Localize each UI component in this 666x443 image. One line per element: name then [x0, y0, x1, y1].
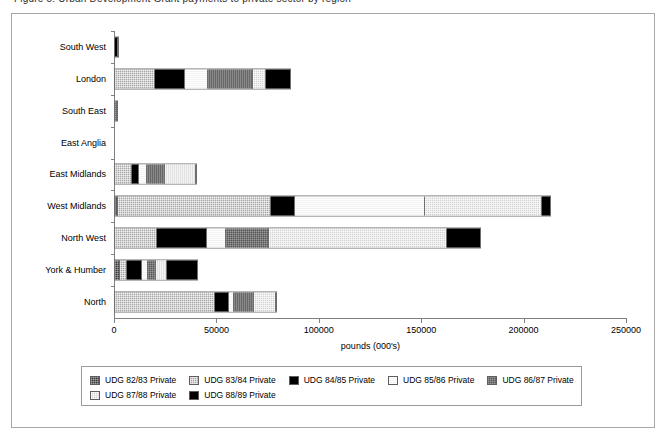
x-axis-tick — [524, 318, 525, 323]
bar-segment[interactable] — [156, 261, 167, 280]
category-label: South West — [60, 42, 106, 51]
category-label: South East — [62, 106, 106, 115]
x-axis-tick-label: 50000 — [204, 325, 229, 335]
category-label: East Anglia — [61, 138, 106, 147]
x-axis-tick — [626, 318, 627, 323]
bar-segment[interactable] — [215, 293, 229, 312]
bar-segment[interactable] — [155, 69, 185, 88]
y-axis-tick — [111, 159, 115, 160]
legend-label: UDG 82/83 Private — [105, 376, 176, 385]
bar-segment[interactable] — [234, 293, 254, 312]
x-axis-tick-label: 100000 — [304, 325, 334, 335]
bar-segment[interactable] — [115, 37, 118, 56]
category-row: London — [114, 63, 626, 95]
legend-label: UDG 83/84 Private — [204, 376, 275, 385]
bar-segment[interactable] — [271, 197, 295, 216]
chart-frame: South WestLondonSouth EastEast AngliaEas… — [11, 13, 655, 428]
x-axis-title: pounds (000's) — [114, 341, 627, 351]
legend-swatch-icon — [388, 376, 398, 385]
bar-segment[interactable] — [115, 229, 157, 248]
legend-swatch-icon — [90, 376, 100, 385]
legend-swatch-icon — [487, 376, 497, 385]
legend-label: UDG 85/86 Private — [403, 376, 474, 385]
category-row: York & Humber — [114, 254, 626, 286]
category-row: South East — [114, 95, 626, 127]
category-label: North — [84, 298, 106, 307]
bar-segment[interactable] — [295, 197, 425, 216]
category-label: North West — [61, 234, 106, 243]
category-row: North West — [114, 222, 626, 254]
category-row: East Midlands — [114, 159, 626, 191]
legend-swatch-icon — [189, 376, 199, 385]
bar-segment[interactable] — [147, 165, 165, 184]
plot-area: South WestLondonSouth EastEast AngliaEas… — [114, 31, 626, 318]
bar-segment[interactable] — [118, 197, 271, 216]
legend-item[interactable]: UDG 82/83 Private — [90, 376, 176, 385]
x-axis-tick-label: 0 — [111, 325, 116, 335]
stacked-bar[interactable] — [114, 260, 198, 281]
bar-segment[interactable] — [115, 69, 155, 88]
legend-swatch-icon — [90, 391, 100, 400]
legend-label: UDG 88/89 Private — [204, 391, 275, 400]
legend-row: UDG 87/88 PrivateUDG 88/89 Private — [90, 388, 581, 403]
category-row: West Midlands — [114, 190, 626, 222]
bar-segment[interactable] — [115, 101, 117, 120]
bar-segment[interactable] — [115, 165, 132, 184]
x-axis-tick-label: 200000 — [509, 325, 539, 335]
bar-segment[interactable] — [226, 229, 269, 248]
bar-segment[interactable] — [127, 261, 142, 280]
bar-segment[interactable] — [254, 293, 276, 312]
bar-segment[interactable] — [208, 69, 253, 88]
y-axis-tick — [111, 190, 115, 191]
chart-legend: UDG 82/83 PrivateUDG 83/84 PrivateUDG 84… — [81, 366, 582, 406]
bar-segment[interactable] — [120, 261, 127, 280]
legend-swatch-icon — [289, 376, 299, 385]
y-axis-tick — [111, 222, 115, 223]
stacked-bar[interactable] — [114, 164, 197, 185]
y-axis-tick — [111, 254, 115, 255]
legend-item[interactable]: UDG 85/86 Private — [388, 376, 474, 385]
bar-segment[interactable] — [447, 229, 480, 248]
bar-segment[interactable] — [132, 165, 139, 184]
category-label: London — [76, 74, 106, 83]
category-label: York & Humber — [45, 266, 106, 275]
x-axis-tick-label: 250000 — [611, 325, 641, 335]
x-axis-line — [114, 318, 627, 319]
stacked-bar[interactable] — [114, 100, 118, 121]
legend-item[interactable]: UDG 88/89 Private — [189, 391, 275, 400]
bar-segment[interactable] — [542, 197, 551, 216]
legend-swatch-icon — [189, 391, 199, 400]
bar-segment[interactable] — [425, 197, 542, 216]
bar-segment[interactable] — [253, 69, 266, 88]
bar-segment[interactable] — [207, 229, 226, 248]
stacked-bar[interactable] — [114, 292, 277, 313]
legend-item[interactable]: UDG 86/87 Private — [487, 376, 573, 385]
legend-item[interactable]: UDG 84/85 Private — [289, 376, 375, 385]
legend-item[interactable]: UDG 83/84 Private — [189, 376, 275, 385]
stacked-bar[interactable] — [114, 228, 481, 249]
bar-segment[interactable] — [115, 293, 215, 312]
bar-segment[interactable] — [167, 261, 197, 280]
y-axis-tick — [111, 31, 115, 32]
bar-segment[interactable] — [139, 165, 147, 184]
category-label: West Midlands — [47, 202, 106, 211]
stacked-bar[interactable] — [114, 36, 119, 57]
category-row: East Anglia — [114, 127, 626, 159]
bar-segment[interactable] — [148, 261, 156, 280]
bar-segment[interactable] — [157, 229, 207, 248]
bar-segment[interactable] — [165, 165, 196, 184]
stacked-bar[interactable] — [114, 196, 551, 217]
x-axis-tick — [114, 318, 115, 323]
cropped-title-strip: Figure 5: Urban Development Grant paymen… — [0, 0, 666, 8]
stacked-bar[interactable] — [114, 68, 291, 89]
bar-segment[interactable] — [266, 69, 290, 88]
legend-label: UDG 86/87 Private — [502, 376, 573, 385]
legend-label: UDG 84/85 Private — [304, 376, 375, 385]
bar-segment[interactable] — [269, 229, 447, 248]
cropped-title-text: Figure 5: Urban Development Grant paymen… — [14, 0, 351, 4]
category-row: South West — [114, 31, 626, 63]
x-axis-tick — [319, 318, 320, 323]
legend-item[interactable]: UDG 87/88 Private — [90, 391, 176, 400]
legend-label: UDG 87/88 Private — [105, 391, 176, 400]
bar-segment[interactable] — [185, 69, 208, 88]
